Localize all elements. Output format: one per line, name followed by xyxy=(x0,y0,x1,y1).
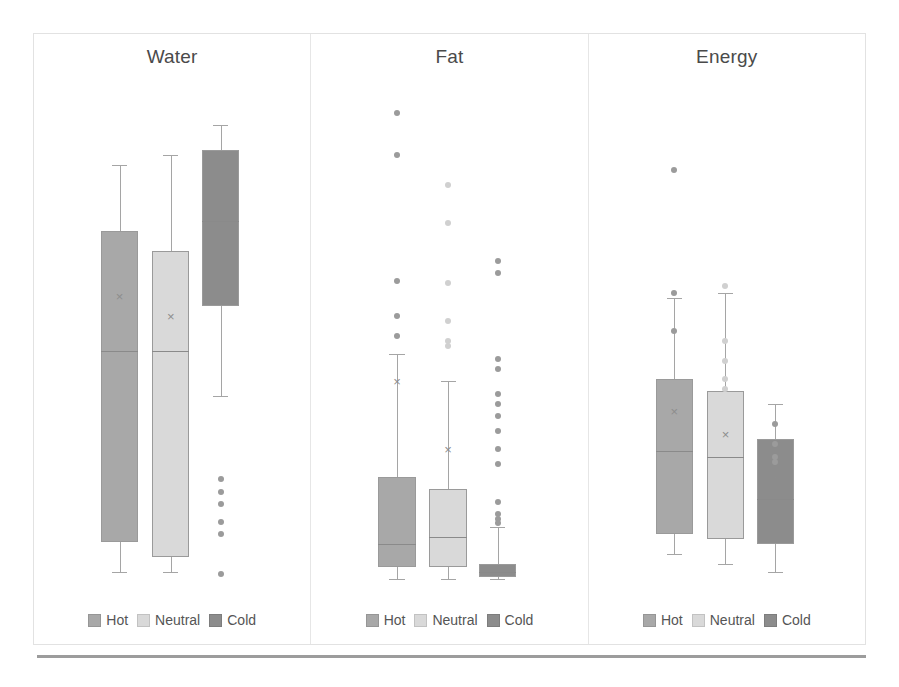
panel-title-fat: Fat xyxy=(311,46,587,68)
whisker-cap-lower-neutral xyxy=(718,564,733,565)
outlier-point-neutral xyxy=(722,358,728,364)
legend-item-neutral[interactable]: Neutral xyxy=(137,612,200,628)
whisker-cap-lower-cold xyxy=(213,396,228,397)
legend-swatch-icon-cold xyxy=(209,614,222,627)
bottom-rule xyxy=(37,655,866,658)
mean-marker-cold: × xyxy=(217,234,225,247)
outlier-point-hot xyxy=(394,110,400,116)
whisker-lower-hot xyxy=(674,534,675,554)
outlier-point-cold xyxy=(495,270,501,276)
mean-marker-cold: × xyxy=(494,560,502,573)
outlier-point-neutral xyxy=(445,220,451,226)
outlier-point-cold xyxy=(495,258,501,264)
whisker-cap-lower-cold xyxy=(490,579,505,580)
box-neutral[interactable] xyxy=(707,391,744,539)
whisker-upper-neutral xyxy=(448,381,449,489)
outlier-point-cold xyxy=(218,531,224,537)
legend-item-hot[interactable]: Hot xyxy=(366,612,406,628)
legend-item-hot[interactable]: Hot xyxy=(643,612,683,628)
whisker-upper-cold xyxy=(221,125,222,150)
outlier-point-cold xyxy=(772,441,778,447)
mean-marker-hot: × xyxy=(393,375,401,388)
outlier-point-neutral xyxy=(722,386,728,392)
plot-area-water: ××× xyxy=(34,80,310,582)
outlier-point-cold xyxy=(495,499,501,505)
outlier-point-neutral xyxy=(445,318,451,324)
outlier-point-cold xyxy=(772,459,778,465)
median-line-neutral xyxy=(429,537,466,538)
outlier-point-cold xyxy=(495,356,501,362)
box-neutral[interactable] xyxy=(152,251,189,557)
outlier-point-cold xyxy=(772,421,778,427)
legend-item-cold[interactable]: Cold xyxy=(209,612,256,628)
boxplot-figure: Water ××× HotNeutralCold Fat ××× HotNeut… xyxy=(33,33,866,645)
legend-item-neutral[interactable]: Neutral xyxy=(414,612,477,628)
median-line-hot xyxy=(378,544,415,545)
legend-energy: HotNeutralCold xyxy=(589,612,865,628)
legend-swatch-icon-neutral xyxy=(692,614,705,627)
outlier-point-neutral xyxy=(722,283,728,289)
whisker-lower-hot xyxy=(397,567,398,580)
whisker-cap-lower-neutral xyxy=(163,572,178,573)
whisker-cap-lower-hot xyxy=(389,579,404,580)
legend-label: Hot xyxy=(106,612,128,628)
outlier-point-cold xyxy=(218,519,224,525)
outlier-point-cold xyxy=(218,501,224,507)
median-line-hot xyxy=(656,451,693,452)
legend-fat: HotNeutralCold xyxy=(311,612,587,628)
outlier-point-cold xyxy=(495,401,501,407)
legend-swatch-icon-neutral xyxy=(137,614,150,627)
mean-marker-neutral: × xyxy=(722,427,730,440)
legend-label: Neutral xyxy=(432,612,477,628)
mean-marker-neutral: × xyxy=(167,309,175,322)
whisker-cap-upper-hot xyxy=(389,354,404,355)
median-line-hot xyxy=(101,351,138,352)
outlier-point-neutral xyxy=(445,182,451,188)
median-line-cold xyxy=(202,221,239,222)
mean-marker-hot: × xyxy=(116,289,124,302)
outlier-point-neutral xyxy=(445,280,451,286)
outlier-point-hot xyxy=(671,167,677,173)
panel-title-water: Water xyxy=(34,46,310,68)
legend-item-cold[interactable]: Cold xyxy=(487,612,534,628)
whisker-cap-upper-cold xyxy=(213,125,228,126)
box-cold[interactable] xyxy=(202,150,239,306)
whisker-lower-neutral xyxy=(448,567,449,580)
plot-area-energy: ××× xyxy=(589,80,865,582)
outlier-point-cold xyxy=(495,413,501,419)
legend-swatch-icon-cold xyxy=(764,614,777,627)
whisker-upper-neutral xyxy=(171,155,172,250)
whisker-upper-hot xyxy=(397,354,398,477)
outlier-point-neutral xyxy=(722,376,728,382)
legend-label: Cold xyxy=(782,612,811,628)
outlier-point-cold xyxy=(218,476,224,482)
legend-item-cold[interactable]: Cold xyxy=(764,612,811,628)
whisker-cap-lower-cold xyxy=(768,572,783,573)
whisker-upper-hot xyxy=(674,298,675,378)
legend-label: Neutral xyxy=(155,612,200,628)
whisker-cap-upper-hot xyxy=(112,165,127,166)
outlier-point-neutral xyxy=(722,338,728,344)
box-hot[interactable] xyxy=(101,231,138,542)
box-hot[interactable] xyxy=(656,379,693,535)
outlier-point-hot xyxy=(394,152,400,158)
whisker-cap-upper-neutral xyxy=(441,381,456,382)
legend-item-neutral[interactable]: Neutral xyxy=(692,612,755,628)
whisker-cap-upper-neutral xyxy=(163,155,178,156)
legend-item-hot[interactable]: Hot xyxy=(88,612,128,628)
median-line-cold xyxy=(757,499,794,500)
legend-label: Neutral xyxy=(710,612,755,628)
box-hot[interactable] xyxy=(378,477,415,567)
outlier-point-cold xyxy=(495,428,501,434)
outlier-point-hot xyxy=(394,313,400,319)
panel-energy: Energy ××× HotNeutralCold xyxy=(588,34,865,644)
median-line-neutral xyxy=(152,351,189,352)
mean-marker-cold: × xyxy=(771,470,779,483)
outlier-point-neutral xyxy=(445,343,451,349)
panel-title-energy: Energy xyxy=(589,46,865,68)
panel-fat: Fat ××× HotNeutralCold xyxy=(310,34,587,644)
box-neutral[interactable] xyxy=(429,489,466,567)
legend-label: Hot xyxy=(384,612,406,628)
legend-water: HotNeutralCold xyxy=(34,612,310,628)
mean-marker-neutral: × xyxy=(444,442,452,455)
